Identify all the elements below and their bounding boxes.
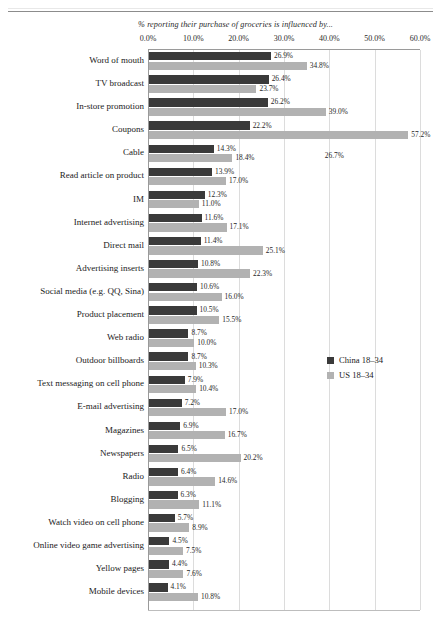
bar-us[interactable]	[149, 362, 196, 370]
category-label: Coupons	[4, 124, 144, 135]
bar-us[interactable]	[149, 200, 199, 208]
bar-china[interactable]	[149, 237, 201, 245]
bar-value-us: 57.2%	[411, 131, 430, 139]
legend-swatch-us-icon	[327, 372, 334, 379]
bar-china[interactable]	[149, 329, 188, 337]
bar-us[interactable]	[149, 177, 226, 185]
bar-china[interactable]	[149, 583, 168, 591]
legend-label-us: US 18–34	[339, 370, 374, 380]
bar-value-china: 7.2%	[185, 399, 200, 407]
bar-us[interactable]	[149, 500, 199, 508]
bar-value-us: 14.6%	[218, 477, 237, 485]
bar-row: IM12.3%11.0%	[0, 189, 441, 212]
bar-value-us: 10.0%	[197, 339, 216, 347]
bar-group: 26.2%39.0%	[149, 97, 441, 118]
bar-us[interactable]	[149, 547, 183, 555]
bar-value-us: 11.1%	[202, 501, 221, 509]
bar-china[interactable]	[149, 560, 169, 568]
bar-rows: Word of mouth26.9%34.8%TV broadcast26.4%…	[0, 50, 441, 604]
bar-china[interactable]	[149, 52, 271, 60]
bar-row: Social media (e.g. QQ, Sina)10.6%16.0%	[0, 281, 441, 304]
bar-group: 5.7%8.9%	[149, 513, 441, 534]
bar-row: Read article on product13.9%17.0%	[0, 165, 441, 188]
bar-china[interactable]	[149, 283, 197, 291]
bar-value-us: 8.9%	[192, 524, 207, 532]
bar-group: 6.9%16.7%	[149, 421, 441, 442]
bar-group: 10.8%22.3%	[149, 259, 441, 280]
bar-us[interactable]	[149, 570, 183, 578]
bar-group: 4.1%10.8%	[149, 582, 441, 603]
bar-china[interactable]	[149, 145, 214, 153]
bar-china[interactable]	[149, 214, 202, 222]
bar-row: Word of mouth26.9%34.8%	[0, 50, 441, 73]
bar-group: 10.6%16.0%	[149, 282, 441, 303]
bar-china[interactable]	[149, 260, 198, 268]
bar-china[interactable]	[149, 306, 197, 314]
bar-china[interactable]	[149, 121, 250, 129]
bar-group: 4.5%7.5%	[149, 536, 441, 557]
bar-value-china: 10.6%	[200, 283, 219, 291]
bar-us[interactable]	[149, 131, 408, 139]
bar-group: 11.6%17.1%	[149, 213, 441, 234]
bar-row: Cable14.3%18.4%	[0, 142, 441, 165]
bar-us[interactable]	[149, 269, 250, 277]
bar-us[interactable]	[149, 431, 225, 439]
bar-row: In-store promotion26.2%39.0%	[0, 96, 441, 119]
bar-us[interactable]	[149, 246, 263, 254]
bar-value-china: 13.9%	[215, 168, 234, 176]
bar-row: TV broadcast26.4%23.7%	[0, 73, 441, 96]
category-label: Magazines	[4, 425, 144, 436]
bar-group: 8.7%10.0%	[149, 328, 441, 349]
legend-swatch-china-icon	[327, 357, 334, 364]
bar-china[interactable]	[149, 75, 269, 83]
bar-value-us: 16.0%	[225, 293, 244, 301]
top-hairline	[8, 8, 433, 9]
bar-value-china: 6.3%	[181, 491, 196, 499]
bar-row: Blogging6.3%11.1%	[0, 489, 441, 512]
category-label: Watch video on cell phone	[4, 517, 144, 528]
bar-china[interactable]	[149, 168, 212, 176]
bar-value-us: 22.3%	[253, 270, 272, 278]
bar-china[interactable]	[149, 352, 188, 360]
legend-item-china[interactable]: China 18–34	[327, 355, 383, 365]
bar-china[interactable]	[149, 376, 185, 384]
category-label: Word of mouth	[4, 55, 144, 66]
bar-value-us: 17.0%	[229, 408, 248, 416]
bar-us[interactable]	[149, 316, 219, 324]
category-label: Web radio	[4, 332, 144, 343]
bar-us[interactable]	[149, 385, 196, 393]
bar-china[interactable]	[149, 514, 175, 522]
bar-value-china: 26.2%	[271, 98, 290, 106]
bar-us[interactable]	[149, 593, 198, 601]
bar-us[interactable]	[149, 339, 194, 347]
bar-china[interactable]	[149, 399, 182, 407]
bar-us[interactable]	[149, 454, 241, 462]
bar-us[interactable]	[149, 477, 215, 485]
bar-group: 6.3%11.1%	[149, 490, 441, 511]
bar-value-us: 7.6%	[186, 570, 201, 578]
bar-us[interactable]	[149, 154, 232, 162]
bar-value-china: 14.3%	[217, 145, 236, 153]
bar-china[interactable]	[149, 537, 169, 545]
x-axis-tick-1: 10.0%	[183, 34, 204, 43]
bar-china[interactable]	[149, 491, 178, 499]
bar-china[interactable]	[149, 445, 178, 453]
category-label: Read article on product	[4, 170, 144, 181]
bar-us[interactable]	[149, 408, 226, 416]
bar-row: Yellow pages4.4%7.6%	[0, 558, 441, 581]
bar-us[interactable]	[149, 523, 189, 531]
legend-item-us[interactable]: US 18–34	[327, 370, 383, 380]
bar-value-us: 10.8%	[201, 593, 220, 601]
bar-us[interactable]	[149, 62, 307, 70]
bar-china[interactable]	[149, 98, 268, 106]
bar-china[interactable]	[149, 422, 180, 430]
bar-us[interactable]	[149, 293, 222, 301]
bar-us[interactable]	[149, 85, 256, 93]
bar-us[interactable]	[149, 108, 326, 116]
bar-value-us: 10.4%	[199, 385, 218, 393]
bar-china[interactable]	[149, 468, 178, 476]
bar-us[interactable]	[149, 223, 227, 231]
category-label: Newspapers	[4, 448, 144, 459]
bar-row: Mobile devices4.1%10.8%	[0, 581, 441, 604]
bar-china[interactable]	[149, 191, 205, 199]
